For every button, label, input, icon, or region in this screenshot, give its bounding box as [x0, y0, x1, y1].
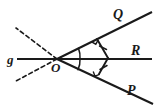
ray-OP [57, 59, 153, 104]
label-g: g [6, 52, 14, 67]
angle-arc-QOR [79, 48, 81, 59]
angle-arc-ROP [78, 59, 80, 70]
geometry-figure-svg: Q R P O g [0, 0, 156, 111]
label-R: R [130, 43, 140, 58]
perpendicular-segment-to-OQ [97, 39, 108, 58]
geometry-figure-canvas: Q R P O g [0, 0, 156, 111]
dashed-ray-upper-left [16, 28, 57, 59]
label-O: O [51, 60, 61, 75]
label-Q: Q [113, 7, 123, 22]
label-P: P [127, 83, 136, 98]
